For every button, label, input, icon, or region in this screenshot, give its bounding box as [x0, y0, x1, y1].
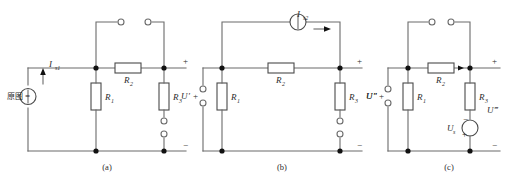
circuit-b: I s2 R 1 R 2 R 3 U ′ + U ″ + − (b) [181, 9, 377, 172]
circuit-c-switch-right-wire [455, 22, 470, 68]
circuit-a-node-top-right [161, 65, 166, 70]
circuit-a-current-arrow-head [40, 68, 46, 75]
circuit-c-node-bottom-left [405, 148, 410, 153]
circuit-a-branch-terminal-upper[interactable] [161, 118, 167, 124]
circuit-a-node-bottom-right [161, 148, 166, 153]
circuit-a-equals-sign: = [25, 91, 30, 101]
circuit-c-switch-left-wire [408, 22, 428, 68]
circuit-b-branch-terminal-lower[interactable] [337, 131, 343, 137]
circuit-c-left-port-terminal-upper[interactable] [385, 86, 391, 92]
circuit-b-R1-subscript: 1 [237, 98, 240, 104]
circuit-c-R2-subscript: 2 [442, 81, 445, 87]
circuit-c-R2-current-arrow [458, 66, 464, 71]
circuit-a-port-minus: − [183, 140, 188, 150]
circuit-b-node-bottom-right [337, 148, 342, 153]
circuit-b-R2-subscript: 2 [282, 81, 285, 87]
circuit-c-switch-terminal-left[interactable] [429, 19, 435, 25]
circuit-c-resistor-R1-body [403, 83, 413, 110]
circuit-a-switch-left-wire [96, 22, 117, 68]
circuit-b-R3-label: R [348, 92, 355, 102]
circuit-c-resistor-R2-body [428, 63, 454, 73]
circuit-b-current-arrow-head [324, 26, 331, 32]
circuit-c-left-voltage-label: U [366, 91, 373, 101]
circuit-c-right-port-plus: + [492, 56, 497, 66]
circuit-a: 原图 = I s1 R 1 R 2 R 3 + − (a) [7, 19, 188, 172]
circuit-c-left-voltage-prime: ″ [373, 91, 377, 101]
circuit-c-R1-subscript: 1 [423, 98, 426, 104]
circuit-c-voltage-source-subscript: s [453, 129, 456, 135]
circuit-b-R1-label: R [230, 92, 237, 102]
circuit-figure: 原图 = I s1 R 1 R 2 R 3 + − (a) [0, 0, 526, 176]
circuit-c-voltage-source-minus: − [463, 114, 468, 124]
circuit-b-resistor-R3-body [335, 83, 345, 110]
circuit-a-switch-right-wire [152, 22, 164, 68]
circuit-b-node-bottom-left [219, 148, 224, 153]
circuit-a-port-plus: + [183, 56, 188, 66]
circuit-a-R1-label: R [104, 92, 111, 102]
circuit-a-R2-label: R [123, 75, 130, 85]
circuit-a-node-top-left [93, 65, 98, 70]
circuit-c-left-port-terminal-lower[interactable] [385, 100, 391, 106]
circuit-c-voltage-source-plus: + [462, 129, 467, 139]
circuit-b-resistor-R2-body [268, 63, 294, 73]
circuit-diagram-canvas: 原图 = I s1 R 1 R 2 R 3 + − (a) [0, 0, 526, 176]
circuit-b-R2-label: R [275, 75, 282, 85]
circuit-c-right-port-minus: − [492, 140, 497, 150]
circuit-c-right-voltage-label: U [487, 105, 494, 115]
circuit-a-switch-terminal-right[interactable] [145, 19, 151, 25]
circuit-c-R3-label: R [478, 92, 485, 102]
circuit-b-source-left-wire [222, 22, 290, 68]
circuit-a-branch-terminal-lower[interactable] [161, 131, 167, 137]
circuit-c-left-port-plus: + [379, 91, 384, 101]
circuit-b-caption: (b) [277, 162, 287, 172]
circuit-b-left-port-terminal-lower[interactable] [200, 100, 206, 106]
circuit-b-source-subscript: s2 [303, 15, 308, 21]
circuit-b-node-top-right [337, 65, 342, 70]
circuit-a-origin-note: 原图 [7, 92, 23, 101]
circuit-b-left-voltage-label: U [181, 91, 188, 101]
circuit-a-node-bottom-left [93, 148, 98, 153]
circuit-c-caption: (c) [444, 162, 454, 172]
circuit-b-left-voltage-prime: ′ [188, 91, 191, 101]
circuit-b-right-port-minus: − [357, 140, 362, 150]
circuit-c-right-voltage-prime: ‴ [494, 105, 499, 115]
circuit-b-node-top-left [219, 65, 224, 70]
circuit-c-node-top-right [467, 65, 472, 70]
circuit-a-resistor-R3-body [159, 83, 169, 110]
circuit-c-resistor-R3-body [465, 83, 475, 110]
circuit-c: R 1 R 2 R 3 U s − + U ″ + U ‴ + − (c) [366, 19, 500, 172]
circuit-a-caption: (a) [102, 162, 112, 172]
circuit-a-resistor-R2-body [115, 63, 141, 73]
circuit-a-R3-label: R [172, 92, 179, 102]
circuit-c-node-bottom-right [467, 148, 472, 153]
circuit-c-node-top-left [405, 65, 410, 70]
circuit-b-left-port-terminal-upper[interactable] [200, 86, 206, 92]
circuit-b-branch-terminal-upper[interactable] [337, 118, 343, 124]
circuit-b-R3-subscript: 3 [354, 98, 358, 104]
circuit-c-R2-label: R [435, 75, 442, 85]
circuit-c-R3-subscript: 3 [484, 98, 488, 104]
circuit-a-switch-terminal-left[interactable] [118, 19, 124, 25]
circuit-a-resistor-R1-body [91, 83, 101, 110]
circuit-b-resistor-R1-body [217, 83, 227, 110]
circuit-b-left-port-plus: + [193, 91, 198, 101]
circuit-c-R1-label: R [416, 92, 423, 102]
circuit-c-switch-terminal-right[interactable] [448, 19, 454, 25]
circuit-a-R2-subscript: 2 [130, 81, 133, 87]
circuit-a-source-subscript: s1 [55, 65, 60, 71]
circuit-b-right-port-plus: + [357, 56, 362, 66]
circuit-a-R1-subscript: 1 [111, 98, 114, 104]
